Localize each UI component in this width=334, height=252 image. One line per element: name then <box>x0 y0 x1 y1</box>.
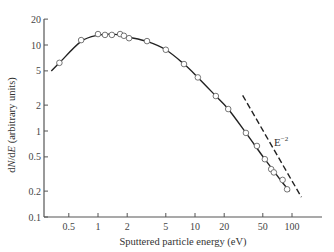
e-minus-2-label: E−2 <box>274 135 289 148</box>
y-tick-label: 0.5 <box>29 151 42 162</box>
axes: 0.10.20.512510200.5125102050100 <box>29 14 323 232</box>
y-tick-label: 2 <box>36 100 41 111</box>
y-tick-label: 0.1 <box>29 212 42 223</box>
y-axis-title: dN/dE (arbitrary units) <box>6 77 18 173</box>
data-point <box>57 60 63 66</box>
y-tick-label: 5 <box>36 65 41 76</box>
plot-area <box>51 31 301 197</box>
y-tick-label: 20 <box>31 14 41 25</box>
data-point <box>109 32 115 38</box>
x-tick-label: 10 <box>190 221 200 232</box>
data-point <box>195 75 201 81</box>
data-point <box>144 38 150 44</box>
data-point <box>271 170 277 176</box>
data-point <box>284 186 290 192</box>
data-point <box>102 32 108 38</box>
x-tick-label: 50 <box>258 221 268 232</box>
data-point <box>78 37 84 43</box>
e-minus-2-reference-line <box>243 95 302 197</box>
data-point <box>126 35 132 41</box>
data-point <box>254 143 260 149</box>
x-tick-label: 2 <box>125 221 130 232</box>
fit-curve <box>51 34 290 191</box>
data-point <box>280 177 286 183</box>
y-tick-label: 10 <box>31 40 41 51</box>
data-point <box>262 156 268 162</box>
y-tick-label: 0.2 <box>29 186 42 197</box>
y-tick-label: 1 <box>36 126 41 137</box>
x-tick-label: 0.5 <box>63 221 76 232</box>
data-point <box>213 93 219 99</box>
x-tick-label: 5 <box>163 221 168 232</box>
data-point <box>225 106 231 112</box>
x-tick-label: 100 <box>285 221 300 232</box>
data-point <box>243 130 249 136</box>
data-point <box>163 47 169 53</box>
x-tick-label: 20 <box>219 221 229 232</box>
data-point <box>95 31 101 37</box>
x-axis-title: Sputtered particle energy (eV) <box>119 236 247 248</box>
chart: 0.10.20.512510200.5125102050100 Sputtere… <box>0 0 334 252</box>
data-point <box>181 61 187 67</box>
x-tick-label: 1 <box>96 221 101 232</box>
